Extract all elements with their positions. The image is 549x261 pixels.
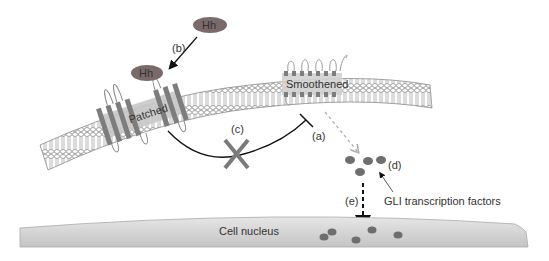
- label-e: (e): [345, 195, 358, 207]
- label-d: (d): [388, 159, 401, 171]
- gli-pointer: [380, 173, 393, 192]
- nucleus-label: Cell nucleus: [219, 225, 279, 237]
- cell-nucleus: Cell nucleus: [20, 217, 528, 247]
- svg-text:Hh: Hh: [202, 19, 216, 31]
- gli-label: GLI transcription factors: [384, 195, 501, 207]
- gli-factors-cytoplasm: [345, 156, 386, 176]
- hh-ligand-bound: Hh: [131, 65, 163, 81]
- label-b: (b): [172, 42, 185, 54]
- inhibition-bar: [300, 114, 313, 127]
- label-a: (a): [312, 130, 325, 142]
- svg-text:Hh: Hh: [139, 67, 153, 79]
- smoothened-label: Smoothened: [286, 78, 348, 90]
- activation-arrow: [325, 112, 358, 152]
- label-c: (c): [231, 123, 244, 135]
- hh-ligand-free: Hh: [193, 17, 227, 33]
- hedgehog-signaling-diagram: Patched Smoothened Hh Hh (b) (a): [0, 0, 549, 261]
